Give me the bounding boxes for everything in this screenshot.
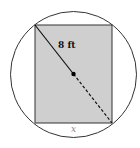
inscribed-rectangle-diagram: 8 ft x: [0, 0, 140, 148]
center-point: [71, 72, 75, 76]
radius-label: 8 ft: [58, 40, 76, 50]
side-label: x: [71, 124, 76, 134]
